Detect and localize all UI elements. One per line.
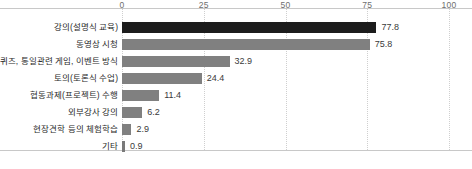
category-label: 강의(설명식 교육) — [54, 22, 118, 33]
bar — [122, 90, 159, 101]
bar — [122, 56, 230, 67]
category-label: 현장견학 등의 체험학습 — [33, 124, 118, 135]
plot-area: 0255075100 강의(설명식 교육)77.8동영상 시청75.8퀴즈, 통… — [122, 9, 449, 150]
bar-value-label: 6.2 — [142, 107, 160, 118]
category-label: 동영상 시청 — [76, 39, 118, 50]
bar-value-label: 0.9 — [125, 141, 143, 152]
bar-row: 협동과제(프로젝트) 수행11.4 — [122, 90, 449, 107]
bar — [122, 22, 376, 33]
category-label: 토의(토론식 수업) — [54, 73, 118, 84]
bar-row: 현장견학 등의 체험학습2.9 — [122, 124, 449, 141]
bar-value-label: 75.8 — [370, 39, 393, 50]
bar-row: 강의(설명식 교육)77.8 — [122, 22, 449, 39]
horizontal-bar-chart: 0255075100 강의(설명식 교육)77.8동영상 시청75.8퀴즈, 통… — [0, 0, 472, 169]
bar — [122, 73, 202, 84]
bar-row: 퀴즈, 통일관련 게임, 이벤트 방식32.9 — [122, 56, 449, 73]
bar-row: 동영상 시청75.8 — [122, 39, 449, 56]
bar-value-label: 11.4 — [159, 90, 181, 101]
bar-row: 토의(토론식 수업)24.4 — [122, 73, 449, 90]
bar-value-label: 2.9 — [131, 124, 149, 135]
bar-value-label: 24.4 — [202, 73, 225, 84]
gridline-100 — [449, 9, 451, 150]
category-label: 외부강사 강의 — [68, 107, 118, 118]
category-label: 협동과제(프로젝트) 수행 — [30, 90, 118, 101]
bar — [122, 107, 142, 118]
bar-row: 기타0.9 — [122, 141, 449, 158]
bar-value-label: 32.9 — [230, 56, 253, 67]
category-label: 기타 — [102, 141, 118, 152]
bar-row: 외부강사 강의6.2 — [122, 107, 449, 124]
bar-rows: 강의(설명식 교육)77.8동영상 시청75.8퀴즈, 통일관련 게임, 이벤트… — [122, 9, 449, 158]
bar — [122, 124, 131, 135]
bar-value-label: 77.8 — [376, 22, 399, 33]
bar — [122, 39, 370, 50]
category-label: 퀴즈, 통일관련 게임, 이벤트 방식 — [0, 56, 118, 67]
